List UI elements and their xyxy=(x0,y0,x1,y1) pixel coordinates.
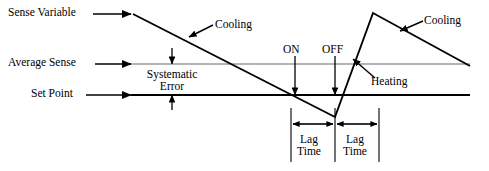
thermostat-cycle-diagram: Sense Variable Average Sense Set Point C… xyxy=(0,0,489,171)
sense-variable-label: Sense Variable xyxy=(8,7,76,19)
cooling-right-label: Cooling xyxy=(424,15,461,27)
lag-time-1-label: Lag Time xyxy=(288,133,330,157)
set-point-label: Set Point xyxy=(31,88,73,100)
off-label: OFF xyxy=(322,44,343,56)
lag-time-2-label-line1: Lag xyxy=(334,133,376,145)
average-sense-label: Average Sense xyxy=(8,57,76,69)
lag-time-2-label: Lag Time xyxy=(334,133,376,157)
cooling-left-label: Cooling xyxy=(215,19,252,31)
cooling-right-pointer-arrow xyxy=(400,21,423,31)
systematic-error-label-line1: Systematic xyxy=(133,69,211,81)
on-label: ON xyxy=(283,44,300,56)
lag-time-2-label-line2: Time xyxy=(334,145,376,157)
systematic-error-label-line2: Error xyxy=(133,81,211,93)
cooling-left-pointer-arrow xyxy=(189,25,213,37)
sense-variable-curve xyxy=(133,13,470,117)
lag-time-1-label-line2: Time xyxy=(288,145,330,157)
heating-label: Heating xyxy=(371,76,407,88)
systematic-error-label: Systematic Error xyxy=(133,69,211,92)
lag-time-1-label-line1: Lag xyxy=(288,133,330,145)
